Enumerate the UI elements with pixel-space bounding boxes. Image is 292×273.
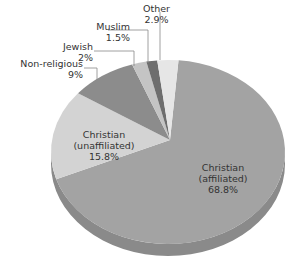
- label-affiliated-value: 68.8%: [191, 184, 255, 195]
- label-other: Other 2.9%: [143, 3, 170, 25]
- leader-jewish: [94, 51, 134, 66]
- label-muslim-value: 1.5%: [90, 32, 130, 43]
- label-muslim: Muslim 1.5%: [90, 21, 130, 43]
- label-other-value: 2.9%: [143, 14, 170, 25]
- label-affiliated-name: Christian: [191, 162, 255, 173]
- label-unaffiliated-value: 15.8%: [68, 151, 140, 162]
- label-affiliated: Christian (affiliated) 68.8%: [191, 162, 255, 195]
- label-muslim-name: Muslim: [90, 21, 130, 32]
- leader-nonreligious: [84, 68, 97, 80]
- label-unaffiliated-subname: (unaffiliated): [68, 140, 140, 151]
- label-nonreligious-name: Non-religious: [3, 58, 83, 69]
- label-unaffiliated: Christian (unaffiliated) 15.8%: [68, 129, 140, 162]
- label-other-name: Other: [143, 3, 170, 14]
- pie-chart: [0, 0, 292, 273]
- label-nonreligious-value: 9%: [3, 69, 83, 80]
- label-unaffiliated-name: Christian: [68, 129, 140, 140]
- label-affiliated-subname: (affiliated): [191, 173, 255, 184]
- label-jewish-name: Jewish: [55, 41, 93, 52]
- label-nonreligious: Non-religious 9%: [3, 58, 83, 80]
